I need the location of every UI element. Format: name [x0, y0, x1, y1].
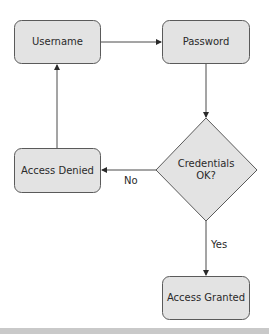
node-credentials-check-label: Credentials OK?: [166, 152, 246, 188]
node-access-denied-label: Access Denied: [14, 148, 101, 193]
node-username-label: Username: [14, 20, 101, 64]
edge-label-no: No: [124, 175, 138, 187]
username-text: Username: [32, 36, 83, 48]
credentials-text-line2: OK?: [196, 170, 216, 182]
access-granted-text: Access Granted: [167, 292, 245, 304]
access-denied-text: Access Denied: [21, 165, 94, 177]
bottom-border-bar: [0, 328, 269, 334]
password-text: Password: [183, 36, 230, 48]
edge-label-yes: Yes: [211, 239, 227, 251]
credentials-text-line1: Credentials: [178, 158, 235, 170]
node-password-label: Password: [162, 20, 250, 64]
node-access-granted-label: Access Granted: [162, 276, 250, 320]
